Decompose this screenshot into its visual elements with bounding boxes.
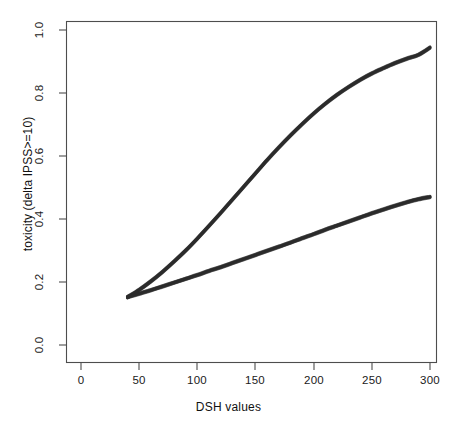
x-tick-marks: [81, 363, 430, 371]
x-tick-label-4: 200: [294, 374, 334, 386]
y-axis-title: toxicity (delta IPSS>=10): [21, 117, 35, 252]
x-tick-label-1: 50: [119, 374, 159, 386]
x-axis-title: DSH values: [0, 400, 457, 414]
y-axis-title-wrapper: toxicity (delta IPSS>=10): [18, 84, 34, 284]
y-tick-label-5: 1.0: [33, 13, 45, 47]
y-tick-label-4: 0.8: [33, 76, 45, 110]
x-tick-label-3: 150: [235, 374, 275, 386]
x-tick-label-6: 300: [410, 374, 450, 386]
y-tick-marks: [59, 30, 67, 345]
y-tick-label-0: 0.0: [33, 328, 45, 362]
chart-figure: 0.0 0.2 0.4 0.6 0.8 1.0 0 50 100 150 200…: [0, 0, 457, 426]
x-tick-label-5: 250: [352, 374, 392, 386]
plot-canvas: [0, 0, 457, 426]
y-tick-label-1: 0.2: [33, 265, 45, 299]
x-tick-label-2: 100: [177, 374, 217, 386]
plot-frame: [67, 22, 437, 363]
x-tick-label-0: 0: [61, 374, 101, 386]
